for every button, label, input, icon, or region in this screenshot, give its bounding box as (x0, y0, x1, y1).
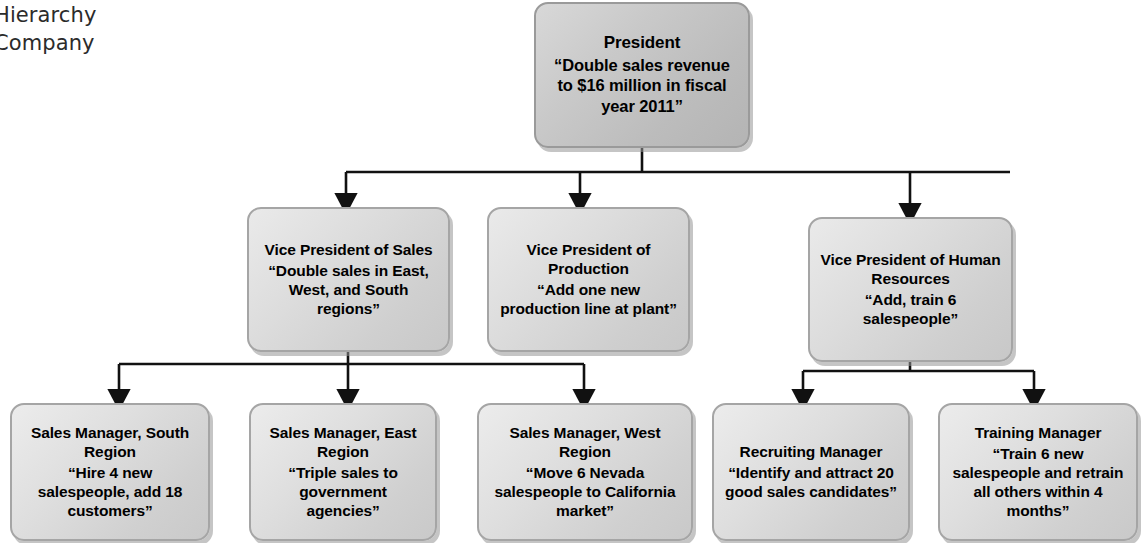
node-title: Vice President of Human Resources (820, 251, 1001, 289)
node-title: President (604, 33, 681, 54)
node-training-manager[interactable]: Training Manager“Train 6 new salespeople… (938, 403, 1138, 541)
node-title: Sales Manager, South Region (22, 424, 198, 462)
node-sales-manager-west[interactable]: Sales Manager, West Region“Move 6 Nevada… (477, 403, 693, 541)
node-vp-human-resources[interactable]: Vice President of Human Resources“Add, t… (808, 217, 1013, 362)
node-title: Training Manager (975, 424, 1102, 443)
node-sales-manager-south[interactable]: Sales Manager, South Region“Hire 4 new s… (10, 403, 210, 541)
node-goal: “Double sales revenue to $16 million in … (546, 55, 738, 117)
node-president[interactable]: President“Double sales revenue to $16 mi… (534, 2, 750, 148)
node-title: Vice President of Production (499, 241, 678, 279)
node-vp-production[interactable]: Vice President of Production“Add one new… (487, 207, 690, 352)
node-goal: “Hire 4 new salespeople, add 18 customer… (22, 463, 198, 521)
node-goal: “Add one new production line at plant” (499, 280, 678, 318)
connector-president-to-vps (346, 148, 1010, 206)
node-goal: “Add, train 6 salespeople” (820, 290, 1001, 328)
node-goal: “Double sales in East, West, and South r… (259, 261, 438, 319)
node-sales-manager-east[interactable]: Sales Manager, East Region“Triple sales … (249, 403, 437, 541)
node-title: Sales Manager, West Region (489, 424, 681, 462)
node-goal: “Move 6 Nevada salespeople to California… (489, 463, 681, 521)
diagram-canvas: Hierarchy Company (0, 0, 1148, 543)
node-goal: “Train 6 new salespeople and retrain all… (950, 444, 1126, 521)
node-vp-sales[interactable]: Vice President of Sales“Double sales in … (247, 207, 450, 352)
node-goal: “Triple sales to government agencies” (261, 463, 425, 521)
node-goal: “Identify and attract 20 good sales cand… (724, 463, 898, 501)
connector-vpsales-to-managers (119, 352, 584, 392)
node-title: Recruiting Manager (740, 443, 883, 462)
connector-vphr-to-managers (803, 362, 1034, 392)
node-title: Sales Manager, East Region (261, 424, 425, 462)
node-recruiting-manager[interactable]: Recruiting Manager“Identify and attract … (712, 403, 910, 541)
node-title: Vice President of Sales (265, 241, 433, 260)
